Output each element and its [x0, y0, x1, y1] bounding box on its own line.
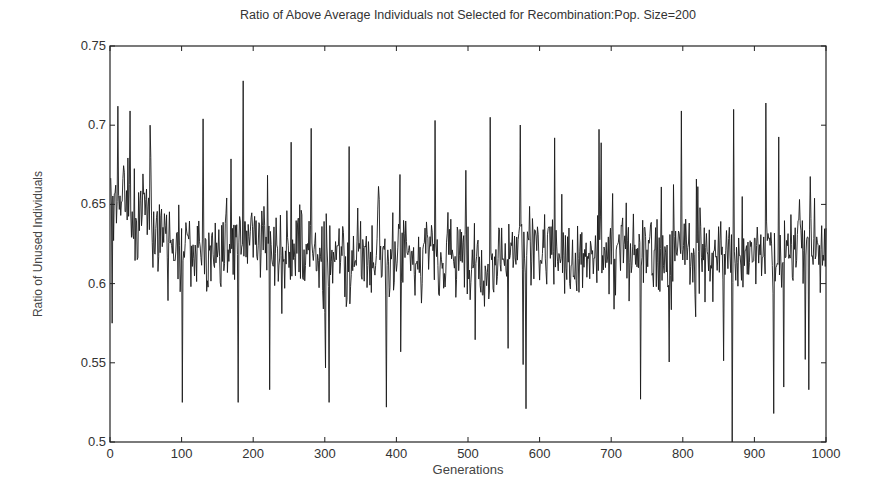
y-tick-label: 0.55 — [81, 355, 106, 370]
x-tick-label: 800 — [672, 446, 694, 461]
y-tick-label: 0.5 — [88, 434, 106, 449]
x-tick-label: 200 — [242, 446, 264, 461]
series-line-path — [111, 81, 826, 442]
y-tick-label: 0.6 — [88, 276, 106, 291]
y-tick-label: 0.7 — [88, 117, 106, 132]
x-tick-label: 400 — [386, 446, 408, 461]
y-tick-label: 0.65 — [81, 196, 106, 211]
data-series-line — [111, 81, 826, 442]
x-tick-label: 600 — [529, 446, 551, 461]
x-tick-label: 300 — [314, 446, 336, 461]
x-tick-label: 700 — [600, 446, 622, 461]
y-tick-label: 0.75 — [81, 38, 106, 53]
x-tick-label: 900 — [744, 446, 766, 461]
x-tick-label: 0 — [106, 446, 113, 461]
x-tick-label: 1000 — [812, 446, 841, 461]
x-tick-label: 100 — [171, 446, 193, 461]
x-tick-label: 500 — [457, 446, 479, 461]
y-axis-ticks: 0.50.550.60.650.70.75 — [81, 38, 826, 449]
line-chart: 01002003004005006007008009001000 0.50.55… — [0, 0, 886, 503]
